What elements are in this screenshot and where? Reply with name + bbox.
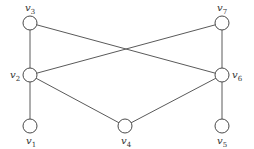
edge-v4-v6 (125, 75, 222, 126)
node-v7 (215, 16, 229, 30)
node-v5 (215, 119, 229, 133)
node-v2 (23, 68, 37, 82)
node-v1 (23, 119, 37, 133)
node-v6 (215, 68, 229, 82)
node-v3 (23, 16, 37, 30)
node-label-v3: v3 (25, 2, 35, 16)
edge-layer (30, 23, 222, 126)
node-label-v5: v5 (217, 135, 227, 149)
node-layer (23, 16, 229, 133)
node-label-v2: v2 (10, 69, 20, 83)
node-label-v7: v7 (217, 2, 227, 16)
node-label-v6: v6 (232, 69, 243, 83)
node-label-v4: v4 (121, 135, 132, 149)
node-v4 (118, 119, 132, 133)
node-label-v1: v1 (26, 135, 36, 149)
edge-v2-v4 (30, 75, 125, 126)
graph-diagram: v1v2v3v4v5v6v7 (0, 0, 254, 149)
